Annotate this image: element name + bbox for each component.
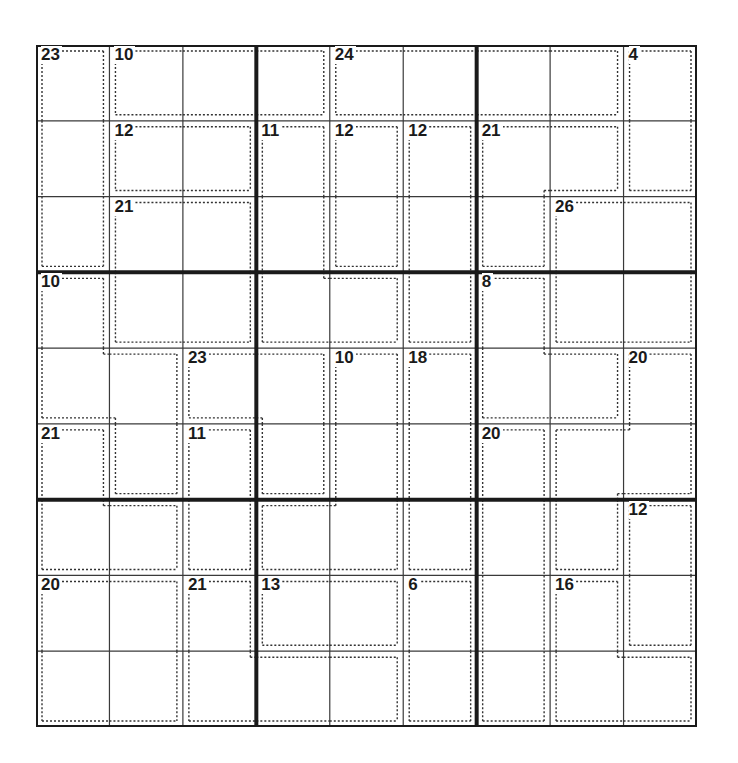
cell-r3c9[interactable] xyxy=(624,197,697,273)
cage-sum: 11 xyxy=(261,122,281,140)
cell-r9c3[interactable] xyxy=(183,651,256,727)
cell-r1c7[interactable] xyxy=(477,45,550,121)
cell-r4c2[interactable] xyxy=(109,272,182,348)
cell-r6c9[interactable] xyxy=(624,424,697,500)
cell-r9c1[interactable] xyxy=(36,651,109,727)
cell-r9c5[interactable] xyxy=(330,651,403,727)
cell-r7c1[interactable] xyxy=(36,500,109,576)
cell-r7c4[interactable] xyxy=(256,500,329,576)
killer-sudoku-board: 2310244121112122121261082310182021112012… xyxy=(36,45,697,727)
cell-r5c1[interactable] xyxy=(36,348,109,424)
cell-r8c9[interactable] xyxy=(624,575,697,651)
cage-sum: 20 xyxy=(482,425,503,443)
cell-r1c1[interactable]: 23 xyxy=(36,45,109,121)
cell-r3c4[interactable] xyxy=(256,197,329,273)
cell-r2c6[interactable]: 12 xyxy=(403,121,476,197)
cell-r5c8[interactable] xyxy=(550,348,623,424)
cage-sum: 24 xyxy=(335,46,356,64)
cell-r1c4[interactable] xyxy=(256,45,329,121)
cell-r8c5[interactable] xyxy=(330,575,403,651)
cell-r2c8[interactable] xyxy=(550,121,623,197)
cell-r1c9[interactable]: 4 xyxy=(624,45,697,121)
cell-r2c1[interactable] xyxy=(36,121,109,197)
cell-r4c7[interactable]: 8 xyxy=(477,272,550,348)
cell-r8c3[interactable]: 21 xyxy=(183,575,256,651)
cell-r9c2[interactable] xyxy=(109,651,182,727)
cell-r7c3[interactable] xyxy=(183,500,256,576)
cell-r4c9[interactable] xyxy=(624,272,697,348)
cell-r3c8[interactable]: 26 xyxy=(550,197,623,273)
cell-r5c5[interactable]: 10 xyxy=(330,348,403,424)
cage-sum: 10 xyxy=(335,349,356,367)
cage-sum: 12 xyxy=(629,501,650,519)
cell-r9c4[interactable] xyxy=(256,651,329,727)
cell-r8c7[interactable] xyxy=(477,575,550,651)
cage-sum: 13 xyxy=(261,576,282,594)
cell-r4c5[interactable] xyxy=(330,272,403,348)
cell-r6c3[interactable]: 11 xyxy=(183,424,256,500)
cell-r5c7[interactable] xyxy=(477,348,550,424)
cell-r5c2[interactable] xyxy=(109,348,182,424)
cell-r8c6[interactable]: 6 xyxy=(403,575,476,651)
cage-sum: 20 xyxy=(629,349,650,367)
cell-r7c7[interactable] xyxy=(477,500,550,576)
cell-r7c2[interactable] xyxy=(109,500,182,576)
cell-r2c4[interactable]: 11 xyxy=(256,121,329,197)
cage-sum: 21 xyxy=(114,198,135,216)
cell-r3c7[interactable] xyxy=(477,197,550,273)
cell-r7c6[interactable] xyxy=(403,500,476,576)
cell-r2c9[interactable] xyxy=(624,121,697,197)
cell-r1c6[interactable] xyxy=(403,45,476,121)
cell-r2c7[interactable]: 21 xyxy=(477,121,550,197)
cell-r5c6[interactable]: 18 xyxy=(403,348,476,424)
cell-r8c2[interactable] xyxy=(109,575,182,651)
cell-r7c5[interactable] xyxy=(330,500,403,576)
cage-sum: 12 xyxy=(335,122,356,140)
cell-r4c3[interactable] xyxy=(183,272,256,348)
cell-r4c4[interactable] xyxy=(256,272,329,348)
cell-r8c1[interactable]: 20 xyxy=(36,575,109,651)
cell-r1c2[interactable]: 10 xyxy=(109,45,182,121)
cell-r3c1[interactable] xyxy=(36,197,109,273)
cell-r6c7[interactable]: 20 xyxy=(477,424,550,500)
cage-sum: 23 xyxy=(41,46,62,64)
cage-sum: 26 xyxy=(555,198,576,216)
cell-r1c8[interactable] xyxy=(550,45,623,121)
cell-r3c3[interactable] xyxy=(183,197,256,273)
cell-r3c5[interactable] xyxy=(330,197,403,273)
cell-r9c9[interactable] xyxy=(624,651,697,727)
cell-r9c8[interactable] xyxy=(550,651,623,727)
cell-r7c8[interactable] xyxy=(550,500,623,576)
cell-r6c1[interactable]: 21 xyxy=(36,424,109,500)
cell-r4c1[interactable]: 10 xyxy=(36,272,109,348)
cell-r1c5[interactable]: 24 xyxy=(330,45,403,121)
cell-r2c3[interactable] xyxy=(183,121,256,197)
cell-r6c2[interactable] xyxy=(109,424,182,500)
cell-r4c8[interactable] xyxy=(550,272,623,348)
cage-sum: 8 xyxy=(482,273,493,291)
cell-r2c2[interactable]: 12 xyxy=(109,121,182,197)
cell-r9c6[interactable] xyxy=(403,651,476,727)
cell-r5c3[interactable]: 23 xyxy=(183,348,256,424)
cage-sum: 23 xyxy=(188,349,209,367)
cell-r6c4[interactable] xyxy=(256,424,329,500)
cage-sum: 6 xyxy=(408,576,419,594)
cell-r6c6[interactable] xyxy=(403,424,476,500)
cell-r5c4[interactable] xyxy=(256,348,329,424)
cage-sum: 4 xyxy=(629,46,640,64)
cell-r6c8[interactable] xyxy=(550,424,623,500)
cage-sum: 16 xyxy=(555,576,576,594)
cell-r9c7[interactable] xyxy=(477,651,550,727)
cell-r1c3[interactable] xyxy=(183,45,256,121)
cage-sum: 10 xyxy=(114,46,135,64)
cell-r3c2[interactable]: 21 xyxy=(109,197,182,273)
cell-r2c5[interactable]: 12 xyxy=(330,121,403,197)
cell-r4c6[interactable] xyxy=(403,272,476,348)
cell-r7c9[interactable]: 12 xyxy=(624,500,697,576)
cell-r6c5[interactable] xyxy=(330,424,403,500)
cell-r8c8[interactable]: 16 xyxy=(550,575,623,651)
cell-r5c9[interactable]: 20 xyxy=(624,348,697,424)
cage-sum: 10 xyxy=(41,273,62,291)
cell-r3c6[interactable] xyxy=(403,197,476,273)
cell-r8c4[interactable]: 13 xyxy=(256,575,329,651)
